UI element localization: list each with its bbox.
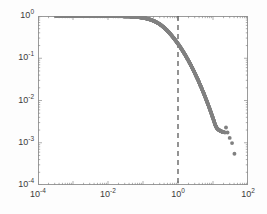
y-tick-label: 100 bbox=[20, 11, 34, 20]
plot-canvas bbox=[38, 16, 248, 185]
y-tick-label: 10-4 bbox=[18, 180, 34, 189]
y-tick-label: 10-3 bbox=[18, 138, 34, 147]
x-tick-label: 100 bbox=[158, 190, 198, 199]
x-tick-label: 10-4 bbox=[18, 190, 58, 199]
chart-root: 100 10-1 10-2 10-3 10-4 10-4 10-2 100 10… bbox=[0, 0, 267, 214]
x-tick-label: 10-2 bbox=[88, 190, 128, 199]
x-tick-label: 102 bbox=[228, 190, 267, 199]
x-axis-minor-ticks bbox=[38, 16, 248, 185]
y-tick-label: 10-1 bbox=[18, 53, 34, 62]
y-axis-minor-ticks bbox=[38, 16, 248, 185]
y-tick-label: 10-2 bbox=[18, 96, 34, 105]
data-points-ccdf bbox=[54, 16, 237, 156]
